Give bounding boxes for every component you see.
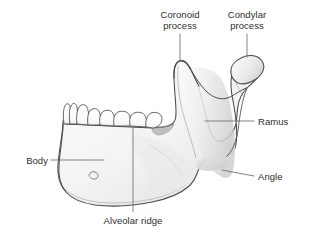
teeth-row — [63, 103, 162, 128]
label-condylar-process-line2: process — [212, 20, 282, 31]
mandible-diagram: Coronoid process Condylar process Ramus … — [0, 0, 311, 237]
condylar-process — [231, 56, 264, 84]
label-angle: Angle — [258, 171, 283, 182]
tooth — [114, 111, 131, 126]
label-alveolar-ridge: Alveolar ridge — [93, 215, 173, 226]
label-coronoid-process-line2: process — [143, 20, 217, 31]
tooth — [100, 110, 115, 126]
label-condylar-process-line1: Condylar — [212, 9, 282, 20]
label-coronoid-process: Coronoid process — [143, 9, 217, 31]
tooth — [88, 109, 101, 125]
tooth — [130, 112, 147, 127]
label-body: Body — [0, 155, 48, 166]
label-ramus: Ramus — [258, 116, 288, 127]
mandible-bone — [58, 56, 264, 206]
label-condylar-process: Condylar process — [212, 9, 282, 31]
label-coronoid-process-line1: Coronoid — [143, 9, 217, 20]
tooth — [77, 105, 89, 125]
tooth — [146, 112, 162, 128]
